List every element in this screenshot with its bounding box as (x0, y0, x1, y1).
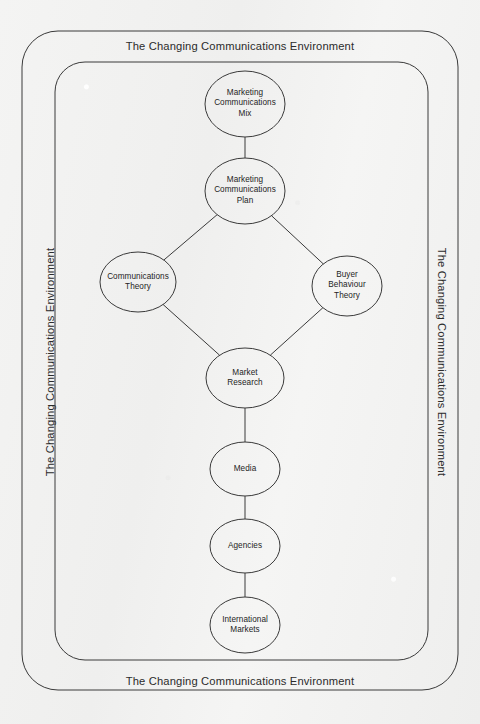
node-communications-theory[interactable] (100, 252, 176, 312)
node-marketing-communications-mix[interactable] (205, 71, 285, 137)
node-media[interactable] (210, 442, 280, 496)
environment-frame (22, 31, 458, 690)
environment-label-left: The Changing Communications Environment (44, 52, 56, 672)
node-buyer-behaviour-theory[interactable] (312, 256, 382, 316)
environment-border-outer (22, 31, 458, 690)
edge-marketing-communications-plan-to-buyer-behaviour-theory (272, 216, 324, 264)
environment-label-top: The Changing Communications Environment (0, 40, 480, 52)
environment-label-bottom: The Changing Communications Environment (0, 675, 480, 687)
environment-label-right: The Changing Communications Environment (436, 52, 448, 672)
node-market-research[interactable] (206, 348, 284, 408)
node-agencies[interactable] (210, 519, 280, 573)
edge-communications-theory-to-market-research (163, 305, 220, 356)
edge-marketing-communications-plan-to-communications-theory (164, 215, 217, 260)
node-international-markets[interactable] (210, 597, 280, 653)
diagram-canvas (0, 0, 480, 724)
node-marketing-communications-plan[interactable] (205, 158, 285, 224)
node-group (100, 71, 382, 653)
edge-group (163, 137, 323, 597)
environment-border-inner (55, 62, 428, 660)
edge-buyer-behaviour-theory-to-market-research (270, 308, 323, 355)
